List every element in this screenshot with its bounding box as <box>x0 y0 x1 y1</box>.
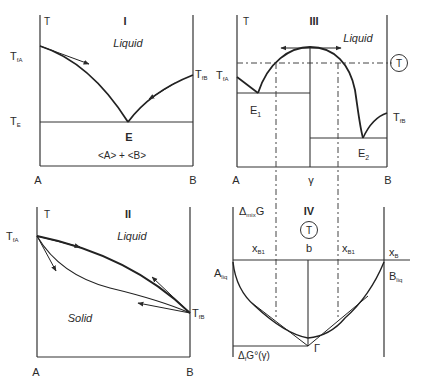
circled-t-label: T <box>306 225 312 236</box>
b-composition-label: b <box>306 242 312 254</box>
compound-gamma-label: γ <box>308 174 314 186</box>
a-liq-label: Aliq <box>214 267 227 280</box>
circled-t-label: T <box>396 58 402 69</box>
component-b-label: B <box>384 174 391 186</box>
panel-iv-gibbs-energy-diagram: T ΔmixG IV xB1 b xB1 xB Aliq Bliq Γ ΔfG°… <box>214 205 410 362</box>
tangent-arrow-b <box>149 83 175 99</box>
xb1-right-label: xB1 <box>342 242 356 255</box>
t-e-label: TE <box>10 115 21 128</box>
region-solid-label: Solid <box>68 312 93 324</box>
tangent-arrow-a <box>40 46 89 64</box>
tangent-arrow-solidus-a <box>37 236 56 271</box>
b-liq-label: Bliq <box>389 270 402 283</box>
eutectic-point-label: E <box>125 131 132 143</box>
component-a-label: A <box>34 174 42 186</box>
region-liquid-label: Liquid <box>113 37 143 49</box>
component-b-label: B <box>189 174 196 186</box>
component-a-label: A <box>32 366 40 378</box>
t-fa-label: TfA <box>10 50 22 63</box>
panel-numeral: II <box>125 208 131 220</box>
e1-label: E1 <box>250 104 261 118</box>
solid-phases-label: <A> + <B> <box>98 150 146 161</box>
xb-axis-label: xB <box>389 246 399 259</box>
panel-iii-compound-diagram: T T III Liquid TfA TfB E1 E2 A γ B <box>216 15 408 317</box>
xb1-left-label: xB1 <box>252 242 266 255</box>
panel-numeral: IV <box>304 205 315 217</box>
panel-i-eutectic-diagram: T I Liquid TfA TfB TE E <A> + <B> A B <box>10 15 207 186</box>
axis-t-label: T <box>243 16 249 27</box>
panel-numeral: III <box>309 15 318 27</box>
phase-diagram-figure: T I Liquid TfA TfB TE E <A> + <B> A B T … <box>0 0 425 384</box>
tangent-arrow-liquidus-b <box>152 277 190 313</box>
tangent-line-left <box>252 303 308 346</box>
component-b-label: B <box>186 366 193 378</box>
t-fa-label: TfA <box>216 69 228 82</box>
solidus-curve <box>37 236 190 313</box>
gamma-point-label: Γ <box>314 342 320 354</box>
region-liquid-label: Liquid <box>343 32 373 44</box>
liquidus-curve <box>37 236 190 313</box>
component-a-label: A <box>232 174 240 186</box>
region-liquid-label: Liquid <box>117 230 147 242</box>
liquidus-a <box>40 46 128 122</box>
t-fa-label: TfA <box>6 230 18 243</box>
formation-energy-label: ΔfG°(γ) <box>238 350 270 362</box>
t-fb-label: TfB <box>192 307 204 320</box>
panel-numeral: I <box>123 15 126 27</box>
liquidus-a-e1 <box>237 77 258 93</box>
delta-mix-g-label: ΔmixG <box>239 205 264 218</box>
t-fb-label: TfB <box>393 111 405 124</box>
tangent-arrow-solidus-b <box>138 303 190 313</box>
panel-ii-solid-solution-diagram: T II Liquid Solid TfA TfB A B <box>6 207 204 378</box>
axis-t-label: T <box>44 209 50 220</box>
t-fb-label: TfB <box>195 68 207 81</box>
e2-label: E2 <box>358 147 369 161</box>
liquidus-e2-b <box>363 113 387 138</box>
liquidus-b <box>128 75 193 122</box>
axis-t-label: T <box>44 16 50 27</box>
